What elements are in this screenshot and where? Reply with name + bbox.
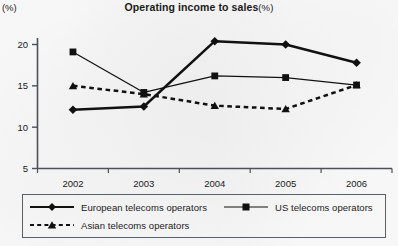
legend-swatch-european xyxy=(29,201,75,213)
series-line xyxy=(73,52,357,93)
legend-label-european: European telecoms operators xyxy=(81,202,207,213)
legend-label-asian: Asian telecoms operators xyxy=(81,220,189,231)
legend-swatch-us xyxy=(223,201,269,213)
chart-legend: European telecoms operators US telecoms … xyxy=(22,194,386,238)
data-point-2005 xyxy=(282,74,289,81)
data-point-2005 xyxy=(281,40,290,49)
data-point-2006 xyxy=(352,58,361,67)
chart-figure: Operating income to sales(%) (%) 5101520… xyxy=(0,0,398,246)
y-tick-label-10: 10 xyxy=(17,122,28,133)
x-tick-label-2006: 2006 xyxy=(346,178,367,189)
legend-label-us: US telecoms operators xyxy=(275,202,373,213)
series-us-telecoms-operators xyxy=(70,49,360,96)
legend-item-european: European telecoms operators xyxy=(29,200,207,214)
data-point-2002 xyxy=(69,106,78,115)
legend-item-us: US telecoms operators xyxy=(223,200,373,214)
legend-item-asian: Asian telecoms operators xyxy=(29,218,189,232)
y-tick-label-5: 5 xyxy=(23,163,28,174)
y-axis-ticks: 5101520 xyxy=(17,39,37,174)
data-series-group xyxy=(69,37,361,114)
plot-area: 5101520 20022003200420052006 xyxy=(0,0,398,194)
y-tick-label-15: 15 xyxy=(17,80,28,91)
y-tick-label-20: 20 xyxy=(17,39,28,50)
legend-swatch-asian xyxy=(29,219,75,231)
data-point-2004 xyxy=(211,73,218,80)
data-point-2002 xyxy=(70,49,77,56)
x-tick-label-2002: 2002 xyxy=(62,178,83,189)
x-axis-labels: 20022003200420052006 xyxy=(62,178,367,189)
x-tick-label-2003: 2003 xyxy=(133,178,154,189)
x-tick-label-2005: 2005 xyxy=(275,178,296,189)
x-tick-label-2004: 2004 xyxy=(204,178,225,189)
